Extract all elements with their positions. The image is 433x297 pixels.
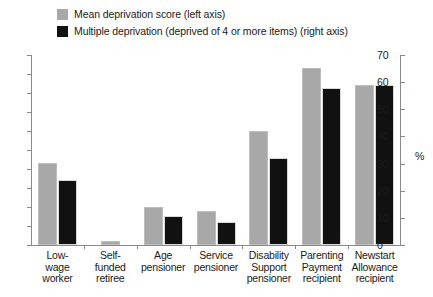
chart-legend: Mean deprivation score (left axis) Multi… (0, 6, 433, 40)
legend-label-mean-deprivation: Mean deprivation score (left axis) (74, 9, 225, 20)
category-label-line: Newstart (348, 250, 401, 262)
category-label-line: pensioner (242, 273, 295, 285)
category-label-line: Parenting (295, 250, 348, 262)
x-axis-separator-tick (348, 245, 349, 249)
right-axis-tick-label: 30 (377, 159, 399, 169)
cropped-caption-text (0, 0, 433, 5)
bar-pair (190, 55, 243, 245)
right-axis-tick-label: 60 (377, 77, 399, 87)
left-axis-tick (27, 188, 31, 189)
bar-group (242, 55, 295, 245)
bar-mean-deprivation (302, 68, 321, 245)
category-label-line: Disability (242, 250, 295, 262)
left-axis-tick (27, 93, 31, 94)
x-axis-category-label: NewstartAllowancerecipient (348, 250, 401, 285)
category-label-line: pensioner (190, 262, 243, 274)
x-axis-separator-tick (190, 245, 191, 249)
right-axis-tick (400, 191, 405, 192)
x-axis-category-label: Self-fundedretiree (84, 250, 137, 285)
bar-group (84, 55, 137, 245)
bar-mean-deprivation (197, 211, 216, 245)
bar-mean-deprivation (144, 207, 163, 245)
deprivation-bar-chart: Mean deprivation score (left axis) Multi… (0, 0, 433, 297)
right-axis-tick (400, 218, 405, 219)
bar-mean-deprivation (249, 131, 268, 245)
x-axis-line (31, 245, 401, 246)
bar-mean-deprivation (38, 163, 57, 245)
bar-group (190, 55, 243, 245)
category-label-line: Service (190, 250, 243, 262)
right-axis-tick-label: 10 (377, 213, 399, 223)
legend-swatch-mean-deprivation (57, 9, 68, 20)
x-axis-separator-tick (242, 245, 243, 249)
left-axis-tick (27, 226, 31, 227)
category-label-line: retiree (84, 273, 137, 285)
bar-pair (242, 55, 295, 245)
right-axis-tick (400, 245, 405, 246)
category-label-line: recipient (348, 273, 401, 285)
left-axis-tick (27, 150, 31, 151)
plot-area (31, 55, 401, 245)
bar-pair (84, 55, 137, 245)
bar-mean-deprivation (355, 85, 374, 245)
bar-multiple-deprivation (269, 158, 288, 245)
right-axis-unit-label: % (415, 150, 424, 162)
x-axis-category-label: DisabilitySupportpensioner (242, 250, 295, 285)
bar-groups (31, 55, 401, 245)
bar-multiple-deprivation (164, 216, 183, 245)
bar-group (31, 55, 84, 245)
bar-pair (137, 55, 190, 245)
right-axis-tick-label: 50 (377, 104, 399, 114)
left-axis-tick (27, 131, 31, 132)
category-label-line: recipient (295, 273, 348, 285)
category-label-line: Low- (31, 250, 84, 262)
right-axis-tick-label: 70 (377, 50, 399, 60)
x-axis-category-label: Low-wageworker (31, 250, 84, 285)
bar-multiple-deprivation (217, 222, 236, 245)
left-axis-tick (27, 112, 31, 113)
category-label-line: worker (31, 273, 84, 285)
bar-group (295, 55, 348, 245)
bar-multiple-deprivation (322, 88, 341, 245)
right-axis-tick (400, 136, 405, 137)
right-axis-tick (400, 164, 405, 165)
left-axis-tick (27, 169, 31, 170)
x-axis-separator-tick (137, 245, 138, 249)
cropped-caption-row (0, 0, 433, 5)
legend-item-multiple-deprivation: Multiple deprivation (deprived of 4 or m… (0, 23, 433, 40)
left-axis-tick (27, 207, 31, 208)
category-label-line: Age (137, 250, 190, 262)
legend-label-multiple-deprivation: Multiple deprivation (deprived of 4 or m… (74, 26, 348, 37)
bar-pair (295, 55, 348, 245)
category-label-line: Self- (84, 250, 137, 262)
right-axis-tick (400, 55, 405, 56)
bar-mean-deprivation (101, 241, 120, 245)
x-axis-separator-tick (295, 245, 296, 249)
x-axis-separator-tick (84, 245, 85, 249)
category-label-line: pensioner (137, 262, 190, 274)
x-axis-category-labels: Low-wageworkerSelf-fundedretireeAgepensi… (31, 250, 401, 285)
right-axis-tick-label: 20 (377, 186, 399, 196)
left-axis-tick (27, 245, 31, 246)
x-axis-category-label: Agepensioner (137, 250, 190, 285)
bar-group (137, 55, 190, 245)
right-axis-tick-label: 40 (377, 131, 399, 141)
left-axis-tick (27, 55, 31, 56)
x-axis-category-label: Servicepensioner (190, 250, 243, 285)
legend-item-mean-deprivation: Mean deprivation score (left axis) (0, 6, 433, 23)
legend-swatch-multiple-deprivation (57, 26, 68, 37)
bar-pair (31, 55, 84, 245)
x-axis-category-label: ParentingPaymentrecipient (295, 250, 348, 285)
right-axis-tick (400, 82, 405, 83)
left-axis-tick (27, 74, 31, 75)
bar-multiple-deprivation (58, 180, 77, 245)
right-axis-tick (400, 109, 405, 110)
